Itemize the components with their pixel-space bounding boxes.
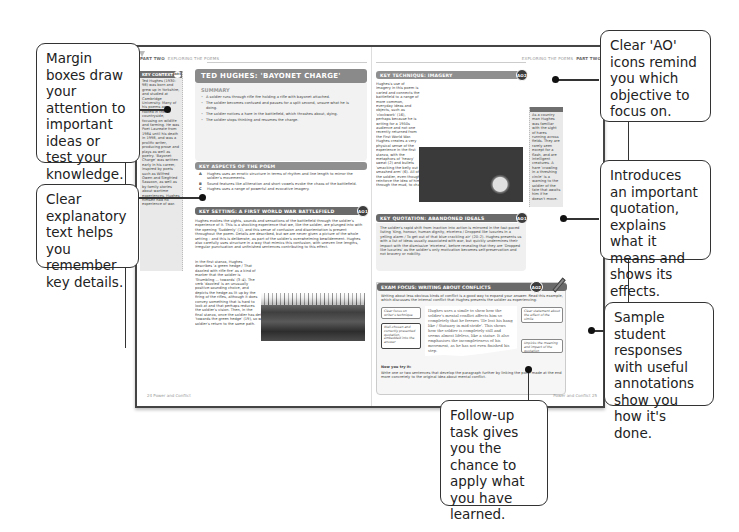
leader-line	[125, 258, 126, 348]
key-quotation-text: The soldier's rapid shift from inaction …	[380, 226, 522, 257]
summary-item: A soldier runs through rifle fire holdin…	[201, 95, 361, 100]
key-aspects-list: AHughes uses an erratic structure in ter…	[199, 172, 367, 192]
pointer-dot	[525, 366, 532, 373]
aspect-item: AHughes uses an erratic structure in ter…	[199, 172, 367, 181]
clockwork-photo	[419, 147, 523, 202]
key-quotation-heading: KEY QUOTATION: ABANDONED IDEALS AO1	[376, 214, 526, 222]
key-quotation-box: The soldier's rapid shift from inaction …	[376, 223, 526, 271]
margin-note-box: As a country man Hughes was familiar wit…	[529, 107, 563, 207]
margin-note-text: As a country man Hughes was familiar wit…	[530, 112, 563, 202]
poem-title: TED HUGHES: 'BAYONET CHARGE'	[195, 69, 367, 83]
leader-line	[563, 218, 599, 220]
ao1-icon: AO1	[357, 205, 369, 217]
callout-key-quotation: Introduces an important quotation, expla…	[600, 160, 711, 260]
summary-item: The soldier stops thinking and resumes t…	[201, 118, 361, 123]
annotation-technique: Clear focus on writer's technique	[381, 307, 421, 319]
page-footer-right: Power and Conflict 25	[553, 393, 597, 398]
summary-item: The soldier notices a hare in the battle…	[201, 112, 361, 117]
callout-explanatory-text: Clear explanatory text helps you remembe…	[36, 184, 139, 268]
key-setting-paragraph-1: Hughes evokes the sights, sounds and sen…	[195, 219, 367, 250]
page-footer-left: 24 Power and Conflict	[147, 393, 191, 398]
pointer-dot	[588, 327, 595, 334]
pointer-dot	[199, 194, 206, 201]
ao2-icon: AO2	[530, 281, 543, 293]
exam-focus-intro: Writing about less obvious kinds of conf…	[381, 294, 563, 303]
annotation-quotation: Well-chosen and correctly presented quot…	[381, 323, 421, 349]
exam-focus-box: EXAM FOCUS: WRITING ABOUT CONFLICTS AO2 …	[376, 282, 566, 395]
hedge-photo	[261, 293, 365, 341]
annotation-effect: Clear statement about the effect of the …	[521, 307, 563, 323]
ao2-icon: AO2	[516, 69, 528, 81]
running-head-left: PART TWO EXPLORING THE POEMS	[140, 56, 219, 61]
callout-margin-boxes: Margin boxes draw your attention to impo…	[36, 43, 140, 163]
callout-sample-responses: Sample student responses with useful ann…	[604, 302, 714, 406]
aspect-item: CHughes uses a range of powerful and evo…	[199, 187, 367, 191]
leader-line	[137, 197, 203, 199]
right-page: EXPLORING THE POEMS PART TWO KEY TECHNIQ…	[372, 47, 605, 406]
key-aspects-heading: KEY ASPECTS OF THE POEM	[195, 162, 367, 170]
key-context-margin-box: KEY CONTEXT AO3 Ted Hughes (1930–98) was…	[140, 71, 183, 271]
leader-line	[556, 79, 599, 81]
header-rule	[207, 62, 367, 63]
header-rule	[376, 62, 526, 63]
key-context-text: Ted Hughes (1930–98) was born and grew u…	[140, 78, 182, 208]
now-you-try-heading: Now you try it:	[381, 365, 563, 369]
aspect-item: BSound features like alliteration and sh…	[199, 182, 367, 186]
summary-box: SUMMARY A soldier runs through rifle fir…	[195, 83, 367, 161]
annotation-meaning: Unpicks the meaning and impact of the qu…	[521, 339, 563, 353]
now-you-try-task: Write one or two sentences that develop …	[381, 371, 563, 380]
pointer-dot	[164, 106, 171, 113]
pointer-dot	[552, 76, 559, 83]
pointer-dot	[560, 215, 567, 222]
summary-heading: SUMMARY	[201, 87, 361, 93]
sample-student-response: Hughes uses a simile to show how the sol…	[425, 306, 517, 356]
callout-follow-up-task: Follow-up task gives you the chance to a…	[440, 400, 548, 506]
key-setting-heading: KEY SETTING: A FIRST WORLD WAR BATTLEFIE…	[195, 207, 367, 215]
leader-line	[628, 120, 629, 160]
running-head-right: EXPLORING THE POEMS PART TWO	[522, 56, 601, 61]
ao3-icon: AO3	[174, 71, 181, 78]
summary-item: The soldier becomes confused and pauses …	[201, 101, 361, 110]
key-context-header: KEY CONTEXT AO3	[140, 71, 182, 78]
book-spread: PART TWO EXPLORING THE POEMS KEY CONTEXT…	[135, 45, 605, 408]
callout-ao-icons: Clear 'AO' icons remind you which object…	[600, 30, 711, 122]
key-technique-heading: KEY TECHNIQUE: IMAGERY AO2	[376, 71, 526, 79]
left-page: PART TWO EXPLORING THE POEMS KEY CONTEXT…	[137, 47, 372, 406]
